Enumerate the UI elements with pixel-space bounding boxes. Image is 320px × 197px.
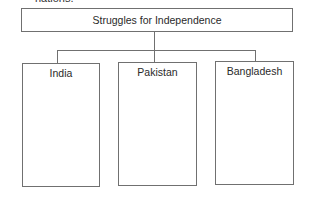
column-label: India	[50, 67, 73, 79]
connector-horizontal	[57, 50, 256, 51]
preceding-text: nations.	[35, 0, 74, 4]
connector-trunk	[154, 32, 155, 51]
connector-bangladesh	[255, 50, 256, 61]
column-label: Bangladesh	[227, 65, 282, 77]
title-label: Struggles for Independence	[92, 14, 221, 26]
title-box: Struggles for Independence	[21, 8, 293, 32]
column-box-india: India	[22, 63, 100, 187]
connector-pakistan	[154, 50, 155, 62]
connector-india	[57, 50, 58, 63]
column-label: Pakistan	[137, 66, 177, 78]
column-box-bangladesh: Bangladesh	[215, 61, 294, 185]
column-box-pakistan: Pakistan	[118, 62, 197, 186]
